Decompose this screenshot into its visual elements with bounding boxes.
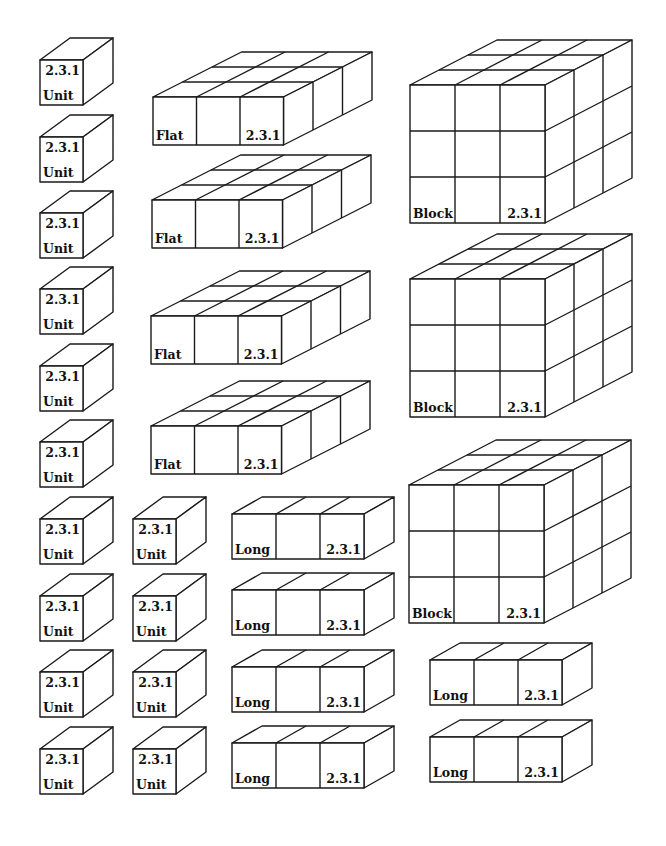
code-label: 2.3.1 xyxy=(246,128,281,143)
code-label: 2.3.1 xyxy=(507,206,542,221)
type-label: Flat xyxy=(156,128,184,143)
type-label: Unit xyxy=(43,88,74,103)
type-label: Unit xyxy=(43,547,74,562)
code-label: 2.3.1 xyxy=(45,292,80,307)
unit-piece: 2.3.1Unit xyxy=(133,727,206,794)
type-label: Long xyxy=(235,771,270,786)
code-label: 2.3.1 xyxy=(326,771,361,786)
block-piece: Block2.3.1 xyxy=(409,440,631,623)
code-label: 2.3.1 xyxy=(138,599,173,614)
type-label: Unit xyxy=(43,241,74,256)
code-label: 2.3.1 xyxy=(45,752,80,767)
type-label: Unit xyxy=(43,317,74,332)
type-label: Unit xyxy=(43,700,74,715)
code-label: 2.3.1 xyxy=(244,347,279,362)
type-label: Unit xyxy=(136,624,167,639)
code-label: 2.3.1 xyxy=(506,606,541,621)
long-piece: Long2.3.1 xyxy=(430,720,592,782)
code-label: 2.3.1 xyxy=(244,457,279,472)
code-label: 2.3.1 xyxy=(524,688,559,703)
unit-piece: 2.3.1Unit xyxy=(40,115,113,182)
code-label: 2.3.1 xyxy=(45,369,80,384)
type-label: Flat xyxy=(155,231,183,246)
long-piece: Long2.3.1 xyxy=(232,650,394,712)
code-label: 2.3.1 xyxy=(45,599,80,614)
code-label: 2.3.1 xyxy=(45,63,80,78)
front-face xyxy=(409,485,544,623)
unit-piece: 2.3.1Unit xyxy=(133,574,206,641)
type-label: Unit xyxy=(136,547,167,562)
code-label: 2.3.1 xyxy=(45,445,80,460)
long-piece: Long2.3.1 xyxy=(430,643,592,705)
unit-piece: 2.3.1Unit xyxy=(133,497,206,564)
code-label: 2.3.1 xyxy=(326,618,361,633)
unit-piece: 2.3.1Unit xyxy=(133,650,206,717)
flat-piece: Flat2.3.1 xyxy=(151,271,370,364)
unit-piece: 2.3.1Unit xyxy=(40,574,113,641)
flat-piece: Flat2.3.1 xyxy=(151,381,370,474)
code-label: 2.3.1 xyxy=(245,231,280,246)
code-label: 2.3.1 xyxy=(138,675,173,690)
front-face xyxy=(410,279,545,417)
unit-piece: 2.3.1Unit xyxy=(40,420,113,487)
code-label: 2.3.1 xyxy=(45,522,80,537)
unit-piece: 2.3.1Unit xyxy=(40,191,113,258)
code-label: 2.3.1 xyxy=(45,140,80,155)
code-label: 2.3.1 xyxy=(138,522,173,537)
type-label: Long xyxy=(433,765,468,780)
long-piece: Long2.3.1 xyxy=(232,726,394,788)
type-label: Block xyxy=(412,606,452,621)
long-piece: Long2.3.1 xyxy=(232,497,394,559)
type-label: Unit xyxy=(43,624,74,639)
block-piece: Block2.3.1 xyxy=(410,40,632,223)
type-label: Unit xyxy=(136,777,167,792)
unit-piece: 2.3.1Unit xyxy=(40,267,113,334)
type-label: Unit xyxy=(43,777,74,792)
code-label: 2.3.1 xyxy=(326,542,361,557)
code-label: 2.3.1 xyxy=(45,675,80,690)
flat-piece: Flat2.3.1 xyxy=(153,52,372,145)
code-label: 2.3.1 xyxy=(138,752,173,767)
front-face xyxy=(410,85,545,223)
blocks-canvas: 2.3.1Unit2.3.1Unit2.3.1Unit2.3.1Unit2.3.… xyxy=(0,0,666,846)
block-piece: Block2.3.1 xyxy=(410,234,632,417)
type-label: Long xyxy=(433,688,468,703)
unit-piece: 2.3.1Unit xyxy=(40,344,113,411)
code-label: 2.3.1 xyxy=(326,695,361,710)
code-label: 2.3.1 xyxy=(507,400,542,415)
type-label: Unit xyxy=(43,470,74,485)
type-label: Long xyxy=(235,695,270,710)
code-label: 2.3.1 xyxy=(524,765,559,780)
unit-piece: 2.3.1Unit xyxy=(40,727,113,794)
unit-piece: 2.3.1Unit xyxy=(40,650,113,717)
type-label: Unit xyxy=(136,700,167,715)
type-label: Block xyxy=(413,400,453,415)
type-label: Flat xyxy=(154,347,182,362)
type-label: Long xyxy=(235,618,270,633)
long-piece: Long2.3.1 xyxy=(232,573,394,635)
type-label: Unit xyxy=(43,394,74,409)
unit-piece: 2.3.1Unit xyxy=(40,38,113,105)
unit-piece: 2.3.1Unit xyxy=(40,497,113,564)
flat-piece: Flat2.3.1 xyxy=(152,155,371,248)
type-label: Long xyxy=(235,542,270,557)
code-label: 2.3.1 xyxy=(45,216,80,231)
type-label: Unit xyxy=(43,165,74,180)
type-label: Block xyxy=(413,206,453,221)
type-label: Flat xyxy=(154,457,182,472)
